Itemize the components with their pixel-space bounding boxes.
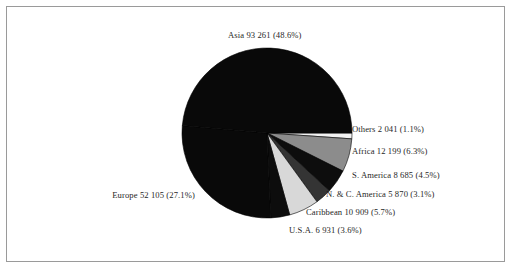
pie-slice-europe	[182, 126, 271, 218]
slice-label-africa: Africa 12 199 (6.3%)	[352, 147, 428, 156]
slice-label-europe: Europe 52 105 (27.1%)	[35, 191, 195, 200]
pie-chart: Asia 93 261 (48.6%) Others 2 041 (1.1%) …	[0, 0, 523, 279]
slice-label-n-c-america: N. & C. America 5 870 (3.1%)	[326, 190, 435, 199]
slice-label-asia: Asia 93 261 (48.6%)	[228, 31, 302, 40]
slice-label-others: Others 2 041 (1.1%)	[352, 125, 424, 134]
slice-label-usa: U.S.A. 6 931 (3.6%)	[289, 226, 362, 235]
slice-label-s-america: S. America 8 685 (4.5%)	[352, 171, 440, 180]
slice-label-caribbean: Caribbean 10 909 (5.7%)	[306, 208, 395, 217]
pie-svg	[0, 0, 523, 279]
pie-slice-asia	[182, 48, 352, 133]
